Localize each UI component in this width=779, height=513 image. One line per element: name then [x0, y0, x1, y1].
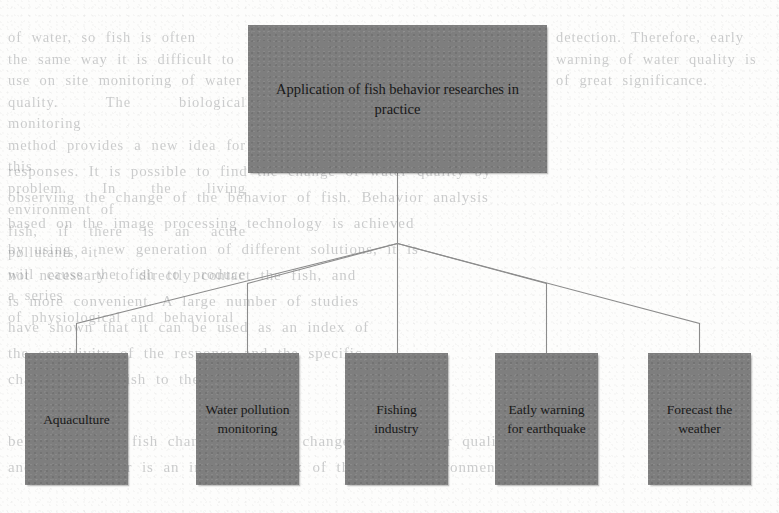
- diagram-node-early-warning-for-earthquake-label: Eatly warning for earthquake: [495, 400, 598, 438]
- diagram-node-fishing-industry[interactable]: Fishing industry: [345, 353, 448, 485]
- connector-to-child-0: [77, 244, 398, 354]
- diagram-node-early-warning-for-earthquake[interactable]: Eatly warning for earthquake: [495, 353, 598, 485]
- diagram-node-fishing-industry-label: Fishing industry: [345, 400, 448, 438]
- connector-to-child-4: [398, 244, 700, 354]
- connector-to-child-3: [398, 244, 547, 354]
- diagram-node-forecast-the-weather[interactable]: Forecast the weather: [648, 353, 751, 485]
- diagram-node-root-label: Application of fish behavior researches …: [248, 79, 547, 119]
- diagram-node-aquaculture[interactable]: Aquaculture: [25, 353, 128, 485]
- diagram-page: of water, so fish is often the same way …: [0, 0, 779, 513]
- diagram-node-water-pollution-monitoring[interactable]: Water pollution monitoring: [196, 353, 299, 485]
- diagram-node-forecast-the-weather-label: Forecast the weather: [648, 400, 751, 438]
- diagram-node-root[interactable]: Application of fish behavior researches …: [248, 25, 547, 173]
- diagram-node-water-pollution-monitoring-label: Water pollution monitoring: [196, 400, 299, 438]
- diagram-node-aquaculture-label: Aquaculture: [35, 410, 118, 429]
- connector-to-child-1: [248, 244, 398, 354]
